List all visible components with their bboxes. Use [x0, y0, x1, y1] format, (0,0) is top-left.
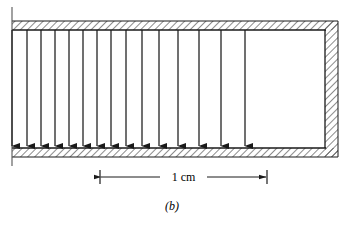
bottom-wall	[12, 148, 338, 157]
top-wall	[12, 21, 338, 30]
bottom-wall-hatching	[12, 148, 338, 157]
right-wall-hatching	[325, 21, 338, 157]
figure-container: 1 cm (b)	[0, 0, 345, 225]
technical-diagram: 1 cm (b)	[0, 0, 345, 225]
right-wall	[325, 21, 338, 157]
figure-background	[0, 0, 345, 225]
scale-bar-label: 1 cm	[172, 170, 196, 184]
figure-caption: (b)	[165, 199, 179, 213]
top-wall-hatching	[12, 21, 338, 30]
